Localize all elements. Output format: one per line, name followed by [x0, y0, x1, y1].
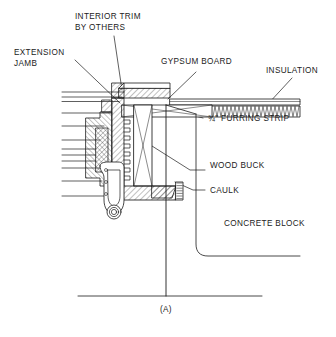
window-hardware-section — [100, 162, 124, 219]
label-insulation: INSULATION — [266, 66, 318, 77]
caulk-section — [176, 182, 183, 200]
label-wood-buck: WOOD BUCK — [210, 161, 265, 172]
label-concrete-block: CONCRETE BLOCK — [224, 219, 305, 230]
figure-caption: (A) — [160, 305, 172, 314]
label-interior-trim: INTERIOR TRIM BY OTHERS — [75, 12, 141, 33]
wood-buck-section — [134, 105, 152, 186]
label-furring-strip: ¾" FURRING STRIP — [208, 114, 289, 125]
sill-section — [124, 186, 176, 200]
gypsum-board-section — [170, 99, 300, 105]
label-extension-jamb: EXTENSION JAMB — [14, 48, 64, 69]
figure-page: INTERIOR TRIM BY OTHERS EXTENSION JAMB G… — [0, 0, 336, 337]
label-caulk: CAULK — [210, 186, 239, 197]
label-gypsum-board: GYPSUM BOARD — [161, 57, 232, 68]
interior-trim-section — [119, 83, 170, 98]
